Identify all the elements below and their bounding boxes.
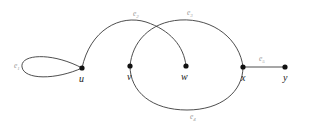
edge-label-e5: e5 [259, 54, 265, 64]
edge-label-e4: e4 [190, 112, 196, 122]
edge-label-e3-sub: 3 [190, 13, 193, 18]
vertex-label-y: y [282, 72, 288, 83]
edge-label-e3: e3 [187, 8, 193, 18]
edge-label-e1-sub: 1 [17, 66, 20, 71]
edge-label-e4-sub: 4 [193, 117, 196, 122]
edge-label-e2-sub: 2 [136, 14, 139, 19]
vertex-label-u: u [79, 73, 84, 84]
vertex-label-x: x [240, 72, 246, 83]
vertex-label-w: w [181, 71, 188, 82]
edge-label-e2: e2 [133, 9, 139, 19]
vertex-u-dot [79, 65, 84, 70]
edge-label-e1: e1 [14, 61, 20, 71]
vertex-y-dot [282, 64, 287, 69]
vertex-v-dot [127, 63, 132, 68]
edge-label-e5-sub: 5 [262, 59, 265, 64]
vertex-w-dot [183, 63, 188, 68]
graph-canvas: u v w x y e1 e2 e3 e4 e5 [0, 0, 311, 131]
edge-e2-u-to-w [82, 20, 186, 68]
vertex-x-dot [240, 64, 245, 69]
vertex-label-v: v [127, 71, 132, 82]
graph-figure: u v w x y e1 e2 e3 e4 e5 [0, 0, 311, 131]
edge-e1-self-loop-u [22, 57, 82, 77]
edge-e3-v-to-x [130, 20, 243, 67]
